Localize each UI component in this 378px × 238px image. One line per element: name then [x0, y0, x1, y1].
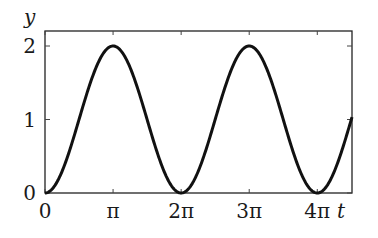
x-tick-label: π: [106, 199, 119, 223]
y-tick-label: 2: [23, 34, 36, 58]
data-curve: [45, 46, 352, 193]
x-axis-ticks: [45, 31, 317, 193]
x-axis-label: t: [337, 199, 346, 223]
y-tick-label: 1: [23, 108, 36, 132]
y-tick-label: 0: [23, 181, 36, 205]
x-tick-label: 4π: [304, 199, 330, 223]
x-tick-label: 2π: [168, 199, 194, 223]
x-tick-label: 0: [39, 199, 52, 223]
x-axis-tick-labels: 0π2π3π4π: [39, 199, 331, 223]
y-axis-label: y: [23, 5, 36, 29]
x-tick-label: 3π: [236, 199, 262, 223]
y-axis-tick-labels: 012: [23, 34, 36, 205]
chart: 0π2π3π4π 012 y t: [0, 0, 378, 238]
